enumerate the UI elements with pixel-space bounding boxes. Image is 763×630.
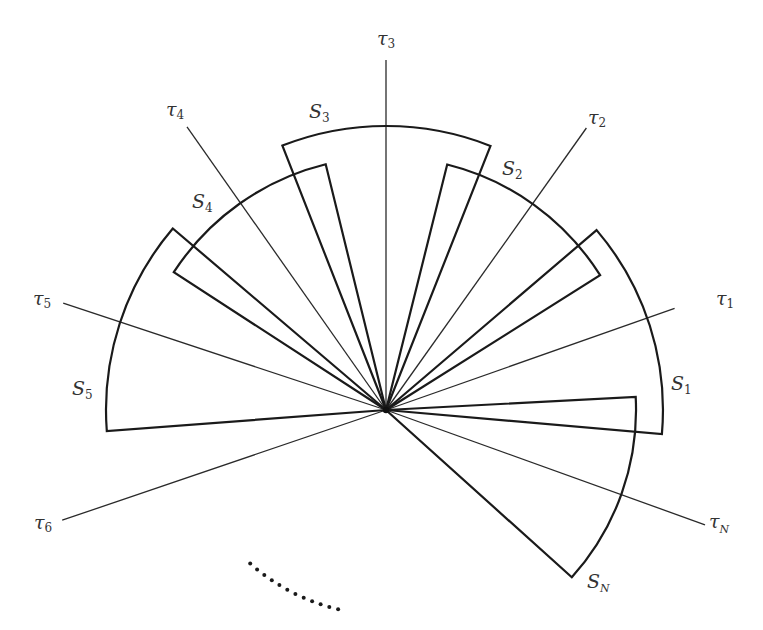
ray-tauN: [386, 410, 705, 525]
label-tauN: τN: [709, 510, 730, 536]
ellipsis-dot: [285, 588, 289, 592]
label-tau6: τ6: [34, 511, 52, 535]
ellipsis-dot: [310, 599, 314, 603]
ellipsis-dot: [262, 573, 266, 577]
label-tau1: τ1: [716, 287, 734, 311]
ellipsis-dot: [302, 596, 306, 600]
ellipsis-dots: [248, 562, 340, 612]
ellipsis-dot: [277, 583, 281, 587]
label-S5: S5: [72, 377, 93, 402]
ellipsis-dot: [319, 602, 323, 606]
labels-group: τ3 τ2 τ4 τ1 τ5 τ6 τN S3 S2 S4 S1 S5 SN: [33, 27, 734, 595]
label-S3: S3: [309, 100, 330, 125]
ellipsis-dot: [336, 607, 340, 611]
ellipsis-dot: [327, 605, 331, 609]
label-tau3: τ3: [377, 27, 395, 51]
sector-S2: [386, 165, 600, 411]
sector-S5: [106, 229, 386, 432]
rays-group: [62, 60, 705, 525]
label-tau4: τ4: [166, 98, 185, 122]
ray-tau1: [386, 308, 675, 410]
label-tau5: τ5: [33, 287, 51, 311]
label-S4: S4: [192, 190, 213, 215]
ellipsis-dot: [248, 562, 252, 566]
label-SN: SN: [587, 570, 610, 595]
ellipsis-dot: [293, 592, 297, 596]
ray-tau2: [386, 128, 586, 410]
ray-tau6: [62, 410, 386, 520]
sectors-group: [106, 126, 663, 577]
ellipsis-dot: [270, 578, 274, 582]
label-S2: S2: [502, 157, 523, 182]
sector-diagram: τ3 τ2 τ4 τ1 τ5 τ6 τN S3 S2 S4 S1 S5 SN: [0, 0, 763, 630]
label-S1: S1: [671, 372, 692, 397]
ellipsis-dot: [255, 567, 259, 571]
ray-tau4: [187, 127, 386, 410]
label-tau2: τ2: [588, 106, 606, 130]
apex-point: [383, 407, 389, 413]
